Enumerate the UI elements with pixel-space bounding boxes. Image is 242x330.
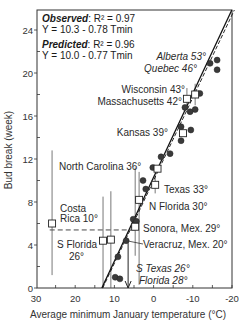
label-north-carolina: North Carolina 36° — [59, 161, 141, 172]
observed-point — [207, 60, 213, 66]
legend-predicted-equation: Y = 10.0 - 0.77 Tmin — [42, 50, 133, 61]
label-alberta: Alberta 53° — [155, 51, 206, 62]
observed-point — [143, 186, 149, 192]
predicted-point — [100, 237, 107, 244]
svg-text:Observed: R² = 0.97: Observed: R² = 0.97 — [42, 13, 136, 24]
predicted-point — [152, 181, 159, 188]
svg-text:Predicted: R² = 0.96: Predicted: R² = 0.96 — [42, 39, 135, 50]
label-veracruz: Veracruz, Mex. 20° — [143, 239, 228, 250]
label-florida: Florida 28° — [139, 275, 187, 286]
annotations: Alberta 53° Quebec 46° Wisconsin 43° Mas… — [57, 51, 228, 286]
y-tick-label: 0 — [28, 283, 33, 294]
label-rica: Rica 10° — [60, 213, 98, 224]
observed-point — [214, 57, 220, 63]
label-s-texas: S Texas 26° — [136, 263, 190, 274]
x-tick-label: 20 — [70, 293, 81, 304]
x-tick-label: -20 — [225, 293, 239, 304]
predicted-point — [136, 196, 143, 203]
label-quebec: Quebec 46° — [144, 63, 197, 74]
observed-point — [214, 67, 220, 73]
predicted-point — [183, 95, 190, 102]
x-tick-label: 30 — [31, 293, 42, 304]
x-axis-title: Average minimum January temperature (°C) — [30, 309, 226, 320]
bud-break-chart: 3020100-10-20 04812162024 Average minimu… — [0, 0, 242, 330]
y-tick-label: 4 — [28, 240, 33, 251]
predicted-point — [132, 223, 139, 230]
label-massachusetts: Massachusetts 42° — [97, 96, 182, 107]
predicted-point — [192, 91, 199, 98]
y-tick-label: 12 — [22, 154, 33, 165]
observed-point — [182, 104, 188, 110]
label-sonora: Sonora, Mex. 29° — [143, 223, 220, 234]
x-tick-label: 0 — [151, 293, 156, 304]
predicted-point — [154, 165, 161, 172]
legend-observed-r2: : R² = 0.97 — [88, 13, 135, 24]
predicted-point — [107, 236, 114, 243]
label-s-florida: S Florida — [57, 239, 97, 250]
y-tick-label: 20 — [22, 68, 33, 79]
legend: Observed: R² = 0.97 Y = 10.3 - 0.78 Tmin… — [42, 13, 136, 61]
observed-point — [117, 276, 123, 282]
label-s-florida-lat: 26° — [69, 251, 84, 262]
predicted-point — [49, 220, 56, 227]
observed-point — [187, 109, 193, 115]
legend-predicted-label: Predicted — [42, 39, 88, 50]
predicted-point — [180, 130, 187, 137]
observed-point — [115, 254, 121, 260]
label-wisconsin: Wisconsin 43° — [122, 84, 185, 95]
y-axis-title: Bud break (week) — [3, 111, 14, 189]
y-tick-label: 16 — [22, 111, 33, 122]
x-tick-label: 10 — [109, 293, 120, 304]
legend-observed-equation: Y = 10.3 - 0.78 Tmin — [42, 24, 133, 35]
label-texas: Texas 33° — [164, 184, 208, 195]
observed-point — [188, 127, 194, 133]
label-kansas: Kansas 39° — [117, 127, 168, 138]
y-tick-label: 24 — [22, 25, 33, 36]
observed-point — [178, 124, 184, 130]
observed-point — [158, 154, 164, 160]
legend-observed-label: Observed — [42, 13, 89, 24]
x-tick-label: -10 — [186, 293, 200, 304]
observed-point — [140, 178, 146, 184]
legend-predicted-r2: : R² = 0.96 — [88, 39, 135, 50]
observed-point — [178, 138, 184, 144]
label-n-florida: N Florida 30° — [149, 201, 207, 212]
observed-point — [167, 151, 173, 157]
y-tick-label: 8 — [28, 197, 33, 208]
